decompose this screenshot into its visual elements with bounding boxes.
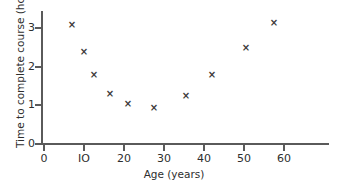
plot-area: ×××××××××× — [0, 0, 348, 190]
y-axis-title: Time to complete course (hours) — [14, 0, 26, 148]
data-point-marker: × — [150, 103, 159, 112]
scatter-plot-figure: 0123 0IO2030405060 ×××××××××× Time to co… — [0, 0, 348, 190]
x-axis-title: Age (years) — [0, 168, 348, 180]
data-point-marker: × — [270, 18, 279, 27]
data-point-marker: × — [124, 99, 133, 108]
data-point-marker: × — [90, 70, 99, 79]
data-point-marker: × — [208, 70, 217, 79]
data-point-marker: × — [242, 43, 251, 52]
data-point-marker: × — [80, 47, 89, 56]
data-point-marker: × — [182, 91, 191, 100]
data-point-marker: × — [68, 20, 77, 29]
data-point-marker: × — [106, 89, 115, 98]
